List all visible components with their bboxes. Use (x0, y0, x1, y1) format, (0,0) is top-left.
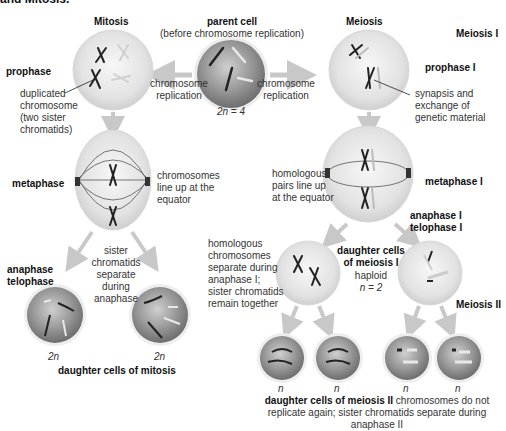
meiosisI-daughter-left (276, 241, 340, 305)
arrow-meiosisI-left (330, 224, 347, 240)
homologous-separate-note: homologouschromosomesseparate during ana… (208, 238, 284, 310)
replication-label-right: chromosomereplication (255, 78, 317, 102)
metaphase-note: chromosomesline up at theequator (157, 170, 220, 206)
meiosis-title: Meiosis (346, 16, 383, 28)
meiosisII-ploidy-1: n (278, 383, 284, 395)
meiosis-II-caption: daughter cells of meiosis II chromosomes… (248, 395, 506, 431)
meiosis-metaphaseI-cell (323, 126, 413, 222)
anaphase-telophase-label: anaphasetelophase (7, 264, 54, 288)
meiosis-II-label: Meiosis II (456, 299, 501, 311)
meiosisII-daughter-1 (257, 333, 307, 383)
meiosis-I-label: Meiosis I (456, 28, 498, 40)
meiosisII-daughter-2 (313, 333, 363, 383)
mitosis-daughter-right-ploidy: 2n (154, 351, 165, 363)
mitosis-daughters-caption: daughter cells of mitosis (58, 365, 176, 377)
replication-label-left: chromosomereplication (148, 78, 210, 102)
synapsis-note: synapsis andexchange ofgenetic material (415, 88, 486, 124)
metaphase-label: metaphase (12, 178, 64, 190)
metaphase-I-label: metaphase I (425, 176, 483, 188)
parent-ploidy: 2n = 4 (211, 106, 251, 118)
anaphase-telophase-I-label: anaphase Itelophase I (410, 210, 462, 234)
parent-cell-title: parent cell (180, 16, 284, 28)
mitosis-daughter-left-ploidy: 2n (48, 351, 59, 363)
parent-cell-subtitle: (before chromosome replication) (150, 28, 314, 40)
prophase-I-label: prophase I (425, 62, 476, 74)
duplicated-chromosome-note: duplicatedchromosome (two sisterchromati… (20, 88, 78, 136)
meiosisI-daughter-right (398, 241, 462, 305)
mitosis-title: Mitosis (94, 16, 128, 28)
daughters-meiosis-I-label: daughter cellsof meiosis I (336, 245, 406, 269)
mitosis-metaphase-cell (75, 130, 151, 230)
header-title-cut: and Mitosis. (0, 0, 69, 5)
meiosisII-ploidy-3: n (403, 383, 409, 395)
homologous-pairs-note: homologouspairs line upat the equator (272, 168, 334, 204)
meiosisII-daughter-3 (382, 333, 432, 383)
haploid-label: haploidn = 2 (346, 270, 396, 294)
sister-chromatids-note: sisterchromatidsseparate duringanaphase (86, 245, 146, 305)
mitosis-daughter-left (24, 284, 86, 346)
mitosis-prophase-cell (65, 30, 153, 110)
meiosisII-ploidy-4: n (455, 383, 461, 395)
meiosisII-daughter-4 (434, 333, 484, 383)
meiosis-prophaseI-cell (329, 30, 410, 110)
prophase-label: prophase (6, 66, 51, 78)
meiosisII-ploidy-2: n (334, 383, 340, 395)
